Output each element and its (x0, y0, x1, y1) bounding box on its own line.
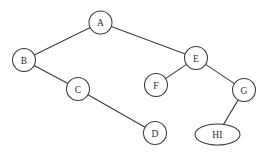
tree-node-label-hi: HI (212, 130, 223, 140)
tree-node-hi[interactable]: HI (195, 124, 240, 145)
tree-node-label-e: E (193, 54, 199, 64)
tree-edge-g-hi (224, 100, 239, 125)
tree-diagram: ABCDEFGHI (0, 0, 271, 154)
tree-edge-b-c (34, 65, 68, 83)
tree-node-f[interactable]: F (145, 74, 168, 97)
tree-node-label-d: D (151, 129, 158, 139)
tree-node-c[interactable]: C (67, 78, 90, 101)
tree-edge-c-d (88, 95, 145, 128)
tree-node-label-c: C (75, 85, 82, 95)
tree-node-label-a: A (97, 18, 104, 28)
tree-node-label-b: B (21, 56, 28, 66)
node-layer: ABCDEFGHI (13, 11, 256, 145)
tree-edge-e-g (206, 64, 235, 83)
tree-diagram-canvas: ABCDEFGHI (0, 0, 271, 154)
tree-edge-e-f (166, 64, 187, 78)
tree-edge-a-e (111, 27, 185, 54)
tree-node-g[interactable]: G (233, 79, 256, 102)
tree-node-b[interactable]: B (13, 49, 36, 72)
tree-node-label-f: F (153, 81, 159, 91)
tree-node-a[interactable]: A (89, 11, 112, 34)
tree-node-label-g: G (240, 86, 247, 96)
edge-layer (34, 27, 238, 128)
tree-edge-a-b (34, 28, 90, 55)
tree-node-e[interactable]: E (185, 47, 208, 70)
tree-node-d[interactable]: D (144, 122, 167, 145)
